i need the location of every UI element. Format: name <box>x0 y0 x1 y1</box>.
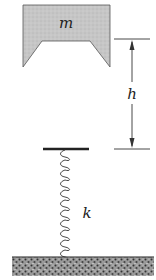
ground <box>12 257 154 276</box>
mass-spring-diagram: m h k <box>0 0 156 280</box>
mass-block: m <box>23 5 110 67</box>
arrow-up-icon <box>130 40 135 50</box>
mass-label: m <box>59 14 73 32</box>
spring-constant-label: k <box>82 204 91 222</box>
arrow-down-icon <box>130 138 135 148</box>
height-label: h <box>127 85 137 103</box>
spring <box>61 150 70 269</box>
